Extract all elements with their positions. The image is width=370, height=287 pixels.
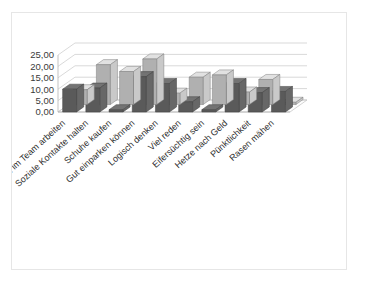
bar-side-face [146,72,153,112]
bar-front-face [109,110,123,112]
gridline-depth-rail [58,66,75,78]
bar-side-face [203,72,210,104]
bar-front-face [120,72,134,105]
y-axis-tick-label: 10,00 [30,84,54,95]
y-axis-tick-label: 20,00 [30,61,54,72]
gridline-depth-rail [58,43,75,55]
bar-front-face [212,75,226,105]
bar-side-face [110,60,117,105]
bar-side-face [226,70,233,105]
y-axis-tick-label: 5,00 [36,95,55,106]
bar-series-2 [212,70,233,105]
bar-front-face [202,110,216,112]
bar-side-face [100,83,107,112]
bar-side-face [157,54,164,105]
bar-side-face [77,84,84,112]
y-axis-tick-label: 15,00 [30,72,54,83]
bar-series-2 [120,66,141,104]
gridline-depth-rail [58,54,75,66]
y-axis-tick-label: 0,00 [36,106,55,117]
bar-side-face [239,78,246,112]
bar-side-face [273,74,280,104]
bar-chart-3d: 25,0020,0015,0010,005,000,00Gut im Team … [12,13,346,269]
chart-frame: 25,0020,0015,0010,005,000,00Gut im Team … [11,12,347,270]
bar-series-1 [63,84,84,112]
bar-front-face [63,89,77,112]
y-axis-tick-label: 25,00 [30,49,54,60]
bar-side-face [134,66,141,104]
bar-side-face [169,78,176,112]
